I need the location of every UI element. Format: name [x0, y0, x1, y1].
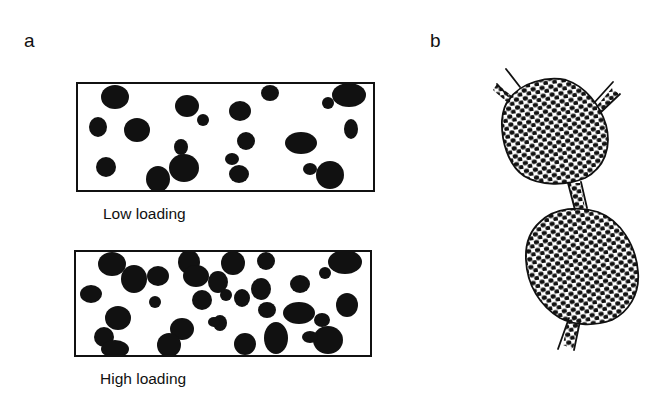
- particle: [105, 306, 131, 330]
- particle: [313, 326, 343, 354]
- particle: [197, 114, 209, 126]
- particle: [208, 271, 228, 293]
- particle: [225, 153, 239, 165]
- particle: [258, 302, 276, 318]
- particle: [98, 252, 126, 276]
- low-loading-box: [77, 83, 374, 192]
- particle: [208, 317, 220, 327]
- particle: [322, 97, 334, 109]
- particle: [221, 251, 245, 275]
- particle: [96, 157, 116, 177]
- particle: [302, 331, 318, 343]
- particle: [124, 118, 150, 142]
- particle: [328, 250, 362, 274]
- particle: [169, 154, 199, 182]
- particle: [332, 83, 366, 107]
- particle: [290, 275, 310, 293]
- particle: [147, 266, 169, 286]
- particle: [257, 252, 275, 270]
- particle: [336, 293, 358, 317]
- particle: [80, 285, 102, 303]
- particle: [89, 117, 107, 137]
- caption-low-loading: Low loading: [103, 205, 186, 223]
- particle: [261, 85, 279, 101]
- particle: [237, 132, 255, 150]
- particle: [183, 265, 209, 287]
- particle: [174, 139, 188, 155]
- particle: [283, 302, 315, 324]
- particle: [285, 132, 317, 154]
- particle: [316, 161, 344, 189]
- high-loading-box: [75, 250, 371, 358]
- particle: [234, 333, 256, 355]
- particle: [303, 163, 317, 175]
- particle: [192, 290, 212, 310]
- particle: [314, 313, 330, 327]
- particle: [234, 289, 250, 307]
- particle: [121, 265, 147, 293]
- particle: [264, 322, 288, 354]
- particle: [175, 95, 199, 117]
- particle: [229, 101, 251, 121]
- particle: [101, 85, 129, 109]
- particle: [251, 278, 271, 300]
- particle: [149, 296, 161, 308]
- particle: [157, 333, 181, 357]
- particle: [229, 165, 249, 183]
- particle: [344, 119, 358, 139]
- globule-diagram: [480, 60, 660, 350]
- particle: [319, 267, 331, 279]
- particle: [146, 166, 170, 192]
- figure-canvas: [0, 0, 671, 396]
- caption-high-loading: High loading: [100, 370, 186, 388]
